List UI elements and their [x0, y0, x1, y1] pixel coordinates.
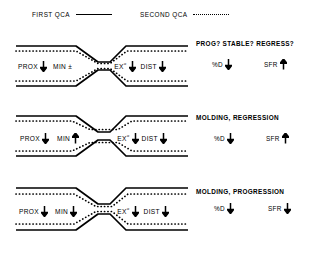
arrow-down-icon	[42, 133, 49, 144]
panel-1: PROX MIN ± EXo DIST	[0, 38, 324, 100]
label-min-3: MIN	[55, 206, 79, 217]
conclusion-2: MOLDING, REGRESSION %D SFR	[196, 114, 324, 144]
arrow-down-icon	[227, 133, 234, 144]
arrow-down-icon	[160, 133, 167, 144]
conclusion-metrics-2: %D SFR	[196, 133, 324, 144]
label-min-1: MIN ±	[53, 63, 72, 70]
label-ex-2: EXo	[117, 133, 140, 144]
second-qca-upper-wall-2	[16, 121, 188, 130]
arrow-down-icon	[225, 59, 232, 70]
arrow-down-icon	[132, 133, 139, 144]
metric-sfr-1: SFR	[264, 59, 289, 70]
arrow-down-icon	[40, 61, 47, 72]
label-prox-2: PROX	[20, 133, 51, 144]
metric-percent-d-3: %D	[214, 203, 236, 214]
first-qca-upper-wall-3	[16, 188, 188, 204]
conclusion-title-2: MOLDING, REGRESSION	[196, 114, 324, 121]
legend-label-second-qca: SECOND QCA	[140, 11, 187, 18]
label-ex-3: EXo	[117, 206, 140, 217]
arrow-down-icon	[41, 206, 48, 217]
arrow-up-icon	[282, 133, 289, 144]
arrow-down-icon	[159, 61, 166, 72]
vessel-labels-1: PROX MIN ± EXo DIST	[14, 59, 190, 73]
label-ex-1: EXo	[114, 61, 137, 72]
panel-2: PROX MIN EXo DIST	[0, 108, 324, 170]
vessel-labels-2: PROX MIN EXo DIST	[14, 131, 190, 145]
label-dist-2: DIST	[142, 133, 169, 144]
label-dist-1: DIST	[141, 61, 168, 72]
arrow-down-icon	[70, 206, 77, 217]
dotted-line-icon	[193, 14, 229, 15]
metric-sfr-2: SFR	[266, 133, 291, 144]
metric-percent-d-2: %D	[214, 133, 236, 144]
panel-3: PROX MIN EXo DIST	[0, 180, 324, 242]
plusminus-icon: ±	[68, 63, 72, 70]
conclusion-1: PROG? STABLE? REGRESS? %D SFR	[196, 40, 324, 70]
legend-item-first-qca: FIRST QCA	[32, 11, 112, 18]
arrow-up-icon	[280, 59, 287, 70]
conclusion-title-1: PROG? STABLE? REGRESS?	[196, 40, 324, 47]
legend: FIRST QCA SECOND QCA	[0, 0, 324, 30]
arrow-down-icon	[227, 203, 234, 214]
conclusion-title-3: MOLDING, PROGRESSION	[196, 188, 324, 195]
vessel-labels-3: PROX MIN EXo DIST	[14, 204, 190, 218]
arrow-down-icon	[162, 206, 169, 217]
label-prox-1: PROX	[18, 61, 49, 72]
conclusion-3: MOLDING, PROGRESSION %D SFR	[196, 188, 324, 214]
arrow-down-icon	[129, 61, 136, 72]
diagram-canvas: FIRST QCA SECOND QCA PROX	[0, 0, 324, 256]
legend-label-first-qca: FIRST QCA	[32, 11, 70, 18]
arrow-down-icon	[284, 203, 291, 214]
arrow-down-icon	[132, 206, 139, 217]
metric-sfr-3: SFR	[268, 203, 293, 214]
arrow-up-icon	[72, 133, 79, 144]
conclusion-metrics-3: %D SFR	[196, 203, 324, 214]
legend-item-second-qca: SECOND QCA	[140, 11, 229, 18]
label-min-2: MIN	[57, 133, 81, 144]
metric-percent-d-1: %D	[212, 59, 234, 70]
label-prox-3: PROX	[19, 206, 50, 217]
conclusion-metrics-1: %D SFR	[196, 59, 324, 70]
label-dist-3: DIST	[144, 206, 171, 217]
solid-line-icon	[76, 14, 112, 15]
